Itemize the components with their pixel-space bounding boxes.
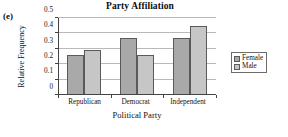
panel-label: (e) xyxy=(3,11,13,21)
y-tick-label: 0.3 xyxy=(44,38,53,45)
legend-label: Male xyxy=(242,63,257,70)
x-category-label: Republican xyxy=(68,98,101,106)
y-tick-label: 0.4 xyxy=(44,23,53,30)
legend-swatch-icon xyxy=(234,56,240,62)
x-axis-category-labels: RepublicanDemocratIndependent xyxy=(58,98,216,106)
y-tick-label: 0.2 xyxy=(44,53,53,60)
y-tick-label: 0.1 xyxy=(44,69,53,76)
y-tick-label: 0.5 xyxy=(44,7,53,14)
plot-area: 00.10.20.30.40.5 xyxy=(58,18,216,95)
y-tick-label: 0 xyxy=(49,84,53,91)
legend-label: Female xyxy=(242,55,263,62)
legend-item[interactable]: Female xyxy=(234,55,263,62)
plot-frame xyxy=(58,18,216,95)
legend-swatch-icon xyxy=(234,64,240,70)
legend: FemaleMale xyxy=(231,52,267,73)
chart-figure: (e) Party Affiliation Relative Frequency… xyxy=(0,0,288,137)
y-axis-label: Relative Frequency xyxy=(17,19,26,95)
x-tick-mark xyxy=(216,95,217,98)
legend-item[interactable]: Male xyxy=(234,63,263,70)
x-category-label: Democrat xyxy=(121,98,149,106)
x-category-label: Independent xyxy=(170,98,206,106)
chart-title: Party Affiliation xyxy=(60,1,220,11)
x-axis-label: Political Party xyxy=(58,110,216,120)
